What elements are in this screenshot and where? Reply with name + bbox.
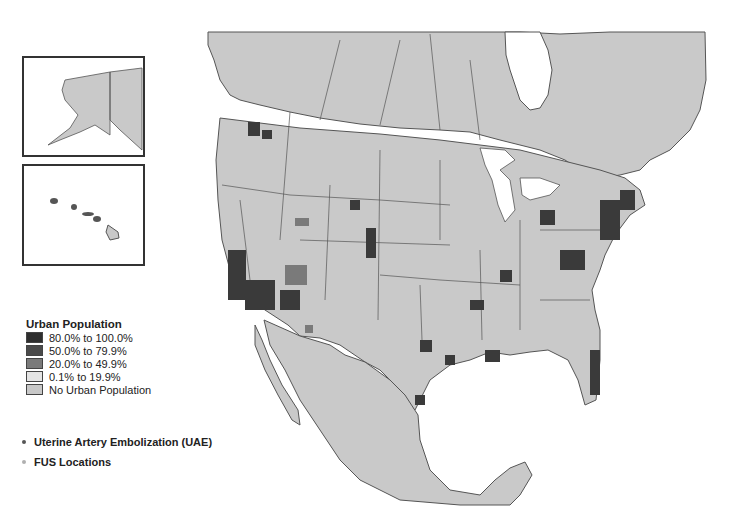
legend-swatch [26,345,43,356]
fus-legend-item: FUS Locations [22,452,212,472]
points-legend: Uterine Artery Embolization (UAE) FUS Lo… [22,432,212,472]
legend-item: No Urban Population [26,383,151,396]
legend-item: 20.0% to 49.9% [26,357,151,370]
legend-item: 80.0% to 100.0% [26,331,151,344]
legend-label: 20.0% to 49.9% [49,358,127,370]
fus-dot-icon [22,460,26,464]
legend-title: Urban Population [26,318,151,330]
legend-label: 0.1% to 19.9% [49,371,121,383]
legend-label: 80.0% to 100.0% [49,332,133,344]
legend-label: No Urban Population [49,384,151,396]
legend-swatch [26,358,43,369]
uae-dot-icon [22,440,26,444]
legend-swatch [26,384,43,395]
legend-swatch [26,371,43,382]
fus-label: FUS Locations [34,456,111,468]
legend-label: 50.0% to 79.9% [49,345,127,357]
uae-legend-item: Uterine Artery Embolization (UAE) [22,432,212,452]
uae-label: Uterine Artery Embolization (UAE) [34,436,212,448]
legend-item: 50.0% to 79.9% [26,344,151,357]
legend-item: 0.1% to 19.9% [26,370,151,383]
legend-swatch [26,332,43,343]
urban-population-legend: Urban Population 80.0% to 100.0% 50.0% t… [26,318,151,396]
